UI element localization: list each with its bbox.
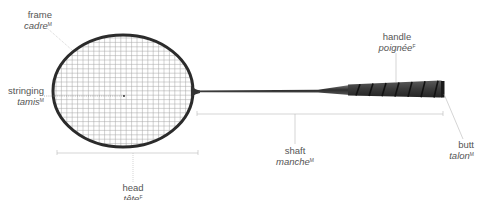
racket-butt	[441, 81, 445, 98]
label-shaft: shaft mancheM	[270, 145, 320, 167]
label-stringing: stringing tamisM	[0, 85, 44, 107]
racket-illustration	[0, 0, 483, 200]
label-handle: handle poignéeF	[372, 31, 422, 53]
stringing-grid	[50, 30, 196, 152]
racket-shaft	[198, 85, 350, 95]
label-head: head têteF	[112, 182, 154, 200]
label-butt: butt talonM	[436, 139, 474, 161]
stringing-center-dot	[123, 95, 125, 97]
label-frame: frame cadreM	[16, 9, 52, 31]
badminton-racket-diagram: frame cadreM stringing tamisM head têteF…	[0, 0, 483, 200]
